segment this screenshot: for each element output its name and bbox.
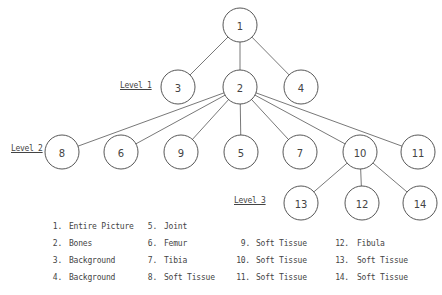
level-label-3: Level 3	[234, 196, 266, 205]
tree-node-4: 4	[284, 70, 318, 104]
legend-text: Soft Tissue	[256, 239, 307, 248]
level-label-2: Level 2	[11, 144, 43, 153]
node-label: 10	[354, 148, 367, 159]
level-label-1: Level 1	[120, 81, 152, 90]
legend-number: 1.	[42, 222, 62, 231]
legend-text: Joint	[164, 222, 187, 231]
node-label: 4	[298, 83, 304, 94]
legend-number: 3.	[42, 256, 62, 265]
tree-node-14: 14	[403, 186, 437, 220]
tree-node-1: 1	[223, 8, 257, 42]
legend-number: 2.	[42, 239, 62, 248]
legend-number: 4.	[42, 273, 62, 282]
legend-number: 11.	[230, 273, 250, 282]
tree-node-7: 7	[283, 135, 317, 169]
legend-text: Soft Tissue	[256, 273, 307, 282]
legend-text: Background	[69, 256, 115, 265]
edge-2-7	[252, 99, 289, 139]
legend-text: Fibula	[357, 239, 385, 248]
legend-text: Bones	[69, 239, 92, 248]
tree-node-10: 10	[343, 135, 377, 169]
node-label: 5	[238, 148, 244, 159]
tree-node-6: 6	[104, 135, 138, 169]
legend-number: 9.	[230, 239, 250, 248]
node-label: 1	[237, 21, 243, 32]
tree-node-3: 3	[161, 70, 195, 104]
legend-text: Entire Picture	[69, 222, 134, 231]
legend-text: Soft Tissue	[164, 273, 215, 282]
edge-2-8	[78, 93, 224, 146]
edge-10-13	[314, 163, 347, 192]
legend-text: Soft Tissue	[256, 256, 307, 265]
node-label: 6	[118, 148, 124, 159]
legend-number: 13.	[329, 256, 349, 265]
node-label: 3	[175, 83, 181, 94]
legend-number: 7.	[137, 256, 157, 265]
edge-1-4	[252, 37, 289, 75]
tree-node-9: 9	[164, 135, 198, 169]
edge-2-11	[256, 93, 402, 146]
legend-text: Soft Tissue	[357, 256, 408, 265]
node-label: 11	[412, 148, 425, 159]
edge-10-14	[373, 163, 407, 192]
node-label: 9	[178, 148, 184, 159]
legend-number: 14.	[329, 273, 349, 282]
legend-number: 5.	[137, 222, 157, 231]
legend-text: Background	[69, 273, 115, 282]
edge-10-12	[361, 169, 362, 186]
legend-text: Tibia	[164, 256, 187, 265]
legend-number: 10.	[230, 256, 250, 265]
legend-text: Femur	[164, 239, 187, 248]
tree-node-5: 5	[224, 135, 258, 169]
legend-number: 12.	[329, 239, 349, 248]
node-label: 2	[237, 83, 243, 94]
legend-text: Soft Tissue	[357, 273, 408, 282]
legend-number: 8.	[137, 273, 157, 282]
legend-number: 6.	[137, 239, 157, 248]
tree-nodes: 1324869571011131214	[45, 8, 437, 220]
node-label: 7	[297, 148, 303, 159]
tree-node-8: 8	[45, 135, 79, 169]
node-label: 12	[356, 199, 369, 210]
tree-diagram: 1324869571011131214	[0, 0, 442, 295]
tree-node-12: 12	[345, 186, 379, 220]
node-label: 14	[414, 199, 427, 210]
node-label: 13	[295, 199, 308, 210]
node-label: 8	[59, 148, 65, 159]
tree-node-13: 13	[284, 186, 318, 220]
edge-2-9	[192, 100, 228, 140]
tree-node-11: 11	[401, 135, 435, 169]
edge-1-3	[190, 37, 228, 75]
tree-node-2: 2	[223, 70, 257, 104]
